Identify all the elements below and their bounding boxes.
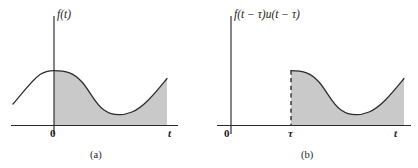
x-tick-zero-a: 0: [50, 128, 56, 139]
panel-b-graphic: [209, 0, 418, 168]
figure-container: f(t) 0 t (a) f(t − τ)u(t − τ) 0 τ t (b): [0, 0, 418, 168]
caption-a: (a): [90, 150, 102, 161]
panel-a-graphic: [0, 0, 209, 168]
x-axis-variable-a: t: [168, 128, 171, 139]
panel-a: f(t) 0 t (a): [0, 0, 209, 168]
panel-b: f(t − τ)u(t − τ) 0 τ t (b): [209, 0, 418, 168]
function-label-b: f(t − τ)u(t − τ): [234, 9, 300, 21]
x-axis-variable-b: t: [394, 128, 397, 139]
function-label-a: f(t): [57, 9, 71, 21]
x-tick-tau-b: τ: [288, 128, 293, 139]
caption-b: (b): [301, 150, 313, 161]
x-tick-zero-b: 0: [224, 128, 230, 139]
